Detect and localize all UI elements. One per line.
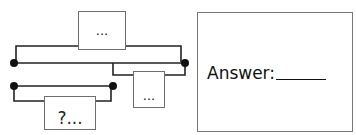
answer-blank[interactable] <box>276 79 326 80</box>
lower-bracket-wire-right <box>96 86 111 101</box>
sub-bracket-wire-left <box>113 63 133 75</box>
answer-label: Answer: <box>207 63 275 83</box>
node-dot-main-left <box>10 59 18 67</box>
answer-box: Answer: <box>197 12 353 132</box>
node-dot-main-right <box>181 59 189 67</box>
right-resistor-box: ... <box>133 71 165 108</box>
top-resistor-box: ... <box>78 11 126 50</box>
top-box-label: ... <box>96 23 108 38</box>
node-dot-lower-left <box>10 82 18 90</box>
question-box-label: ?... <box>57 108 82 128</box>
lower-bracket-wire-left <box>14 86 44 101</box>
right-box-label: ... <box>143 88 155 103</box>
top-bracket-wire-right <box>126 46 181 62</box>
question-resistor-box: ?... <box>44 96 96 130</box>
top-bracket-wire <box>16 46 78 62</box>
node-dot-lower-right <box>109 82 117 90</box>
